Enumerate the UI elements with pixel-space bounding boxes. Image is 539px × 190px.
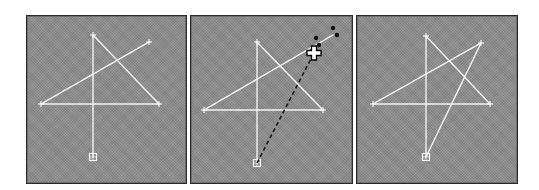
panel-step-1 bbox=[26, 15, 187, 184]
panel-step-3 bbox=[356, 15, 518, 184]
panel-step-2 bbox=[190, 15, 353, 184]
